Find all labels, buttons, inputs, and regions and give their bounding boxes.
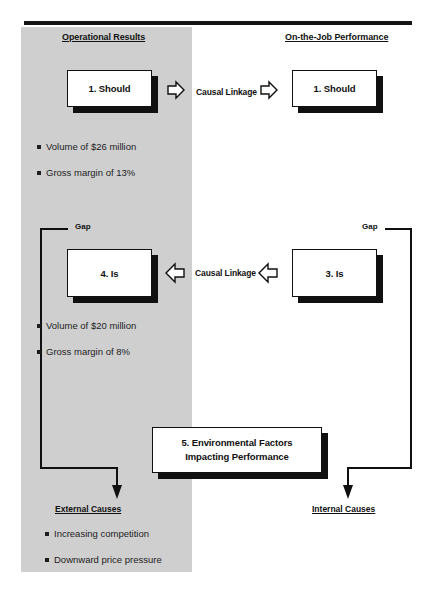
list-item: Downward price pressure [45, 554, 162, 566]
box-should-performance[interactable]: 1. Should [292, 70, 377, 107]
bullet-square-icon [45, 532, 49, 536]
box-face: 4. Is [67, 249, 152, 297]
label-internal-causes: Internal Causes [312, 504, 375, 514]
gap-label-left: Gap [75, 222, 91, 231]
env-line-2: Impacting Performance [185, 451, 289, 462]
box-face: 1. Should [67, 70, 152, 107]
box-label-is-operational: 4. Is [101, 267, 119, 280]
box-label-should-operational: 1. Should [89, 82, 131, 95]
box-label-should-performance: 1. Should [314, 82, 356, 95]
list-item-label: Volume of $26 million [46, 141, 136, 153]
list-item-label: Gross margin of 13% [46, 167, 135, 179]
label-external-causes: External Causes [55, 504, 121, 514]
list-item: Gross margin of 8% [37, 346, 136, 358]
box-is-performance[interactable]: 3. Is [292, 249, 377, 297]
box-environmental-factors[interactable]: 5. Environmental Factors Impacting Perfo… [152, 427, 322, 473]
list-item-label: Volume of $20 million [46, 320, 136, 332]
gap-label-right: Gap [362, 222, 378, 231]
box-is-operational[interactable]: 4. Is [67, 249, 152, 297]
list-item: Increasing competition [45, 528, 162, 540]
column-header-on-the-job-performance: On-the-Job Performance [285, 32, 388, 42]
list-item: Volume of $20 million [37, 320, 136, 332]
box-label-environmental-factors: 5. Environmental Factors Impacting Perfo… [181, 436, 292, 464]
causal-linkage-label-top: Causal Linkage [196, 87, 257, 97]
env-line-1: 5. Environmental Factors [181, 437, 292, 448]
bullet-square-icon [37, 145, 41, 149]
bullet-square-icon [45, 558, 49, 562]
bullet-list-external-causes: Increasing competition Downward price pr… [45, 528, 162, 580]
list-item: Volume of $26 million [37, 141, 136, 153]
list-item-label: Downward price pressure [54, 554, 162, 566]
box-face: 3. Is [292, 249, 377, 297]
box-should-operational[interactable]: 1. Should [67, 70, 152, 107]
top-divider-rule [24, 21, 412, 25]
bullet-square-icon [37, 171, 41, 175]
bullet-square-icon [37, 324, 41, 328]
bullet-list-is-metrics: Volume of $20 million Gross margin of 8% [37, 320, 136, 372]
chevron-left-icon [257, 262, 279, 284]
list-item-label: Gross margin of 8% [46, 346, 130, 358]
bullet-list-should-metrics: Volume of $26 million Gross margin of 13… [37, 141, 136, 193]
list-item-label: Increasing competition [54, 528, 149, 540]
causal-linkage-label-middle: Causal Linkage [195, 268, 256, 278]
chevron-left-icon [164, 262, 186, 284]
chevron-right-icon [166, 80, 186, 100]
bullet-square-icon [37, 350, 41, 354]
box-face: 5. Environmental Factors Impacting Perfo… [152, 427, 322, 473]
box-label-is-performance: 3. Is [326, 267, 344, 280]
column-header-operational-results: Operational Results [62, 32, 145, 42]
diagram-canvas: Operational Results On-the-Job Performan… [0, 0, 432, 603]
list-item: Gross margin of 13% [37, 167, 136, 179]
box-face: 1. Should [292, 70, 377, 107]
chevron-right-icon [259, 80, 279, 100]
